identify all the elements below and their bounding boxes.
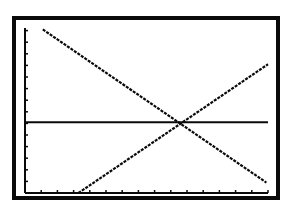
graph-plot: [0, 0, 291, 216]
increasing-line: [78, 64, 268, 193]
decreasing-line: [43, 29, 267, 182]
